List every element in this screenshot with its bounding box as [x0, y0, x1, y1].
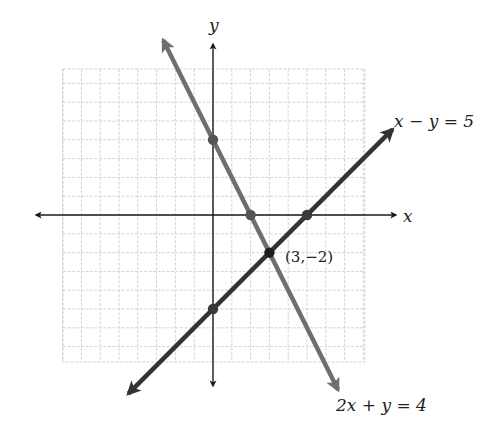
intersection-point — [264, 247, 274, 257]
line2-label: x − y = 5 — [394, 111, 474, 131]
graph-figure: y x x − y = 5 2x + y = 4 (3,−2) — [0, 0, 489, 443]
plot-point — [208, 135, 218, 145]
line-x-minus-y-eq-5 — [128, 129, 392, 393]
plot-point — [302, 210, 312, 220]
y-axis-label: y — [208, 15, 219, 35]
x-axis-label: x — [403, 206, 413, 226]
plot-point — [245, 210, 255, 220]
plot-point — [208, 304, 218, 314]
intersection-label: (3,−2) — [285, 248, 333, 266]
line1-label: 2x + y = 4 — [335, 395, 427, 415]
